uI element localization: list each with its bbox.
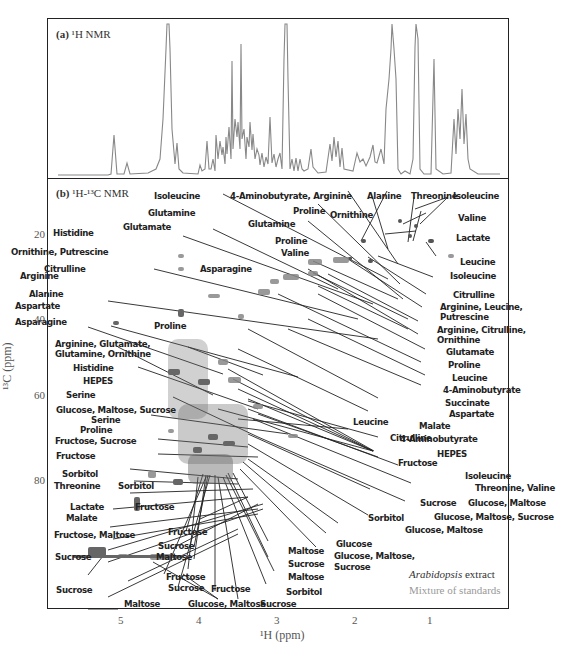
label-serine-2: Serine [91, 415, 120, 425]
label-fructose-b3: Fructose [211, 584, 250, 594]
label-sucrose-b3: Sucrose [260, 599, 296, 609]
xtick-4: 4 [196, 614, 202, 626]
label-ornithine-putrescine: Ornithine, Putrescine [11, 247, 108, 257]
panel-b-hsqc: (b) ¹H-¹³C NMR [47, 178, 509, 609]
label-ornithine-right: Ornithine [437, 335, 480, 345]
label-fructose-center: Fructose [135, 502, 174, 512]
label-glucose-b: Glucose [336, 539, 372, 549]
label-proline-right: Proline [448, 360, 480, 370]
xtick-3: 3 [274, 614, 280, 626]
label-glucose-maltose-comma: Glucose, Maltose, [334, 551, 415, 561]
legend-mixture-of-standards: Mixture of standards [409, 584, 501, 596]
label-aspartate-right: Aspartate [449, 409, 494, 419]
label-glucose-maltose-bottom: Glucose, Maltose [188, 599, 266, 609]
label-leucine-right: Leucine [460, 257, 495, 267]
label-sucrose-right: Sucrose [420, 498, 456, 508]
x-axis-label: ¹H (ppm) [260, 628, 305, 643]
label-isoleucine: Isoleucine [154, 191, 200, 201]
label-citrulline-center: Citrulline [390, 433, 432, 443]
label-alanine-left: Alanine [29, 289, 63, 299]
label-lactate-left: Lactate [70, 502, 104, 512]
xtick-2: 2 [352, 614, 358, 626]
label-maltose-bottom-left: Maltose [124, 599, 160, 609]
xtick-1: 1 [427, 614, 433, 626]
label-sucrose-bottom-left: Sucrose [56, 585, 92, 595]
label-arginine-citrulline: Arginine, Citrulline, [437, 325, 526, 335]
label-leucine-center: Leucine [353, 417, 388, 427]
label-sorbitol-left: Sorbitol [62, 469, 98, 479]
label-fructose-left: Fructose [56, 451, 95, 461]
label-arginine: Arginine [20, 271, 59, 281]
label-sucrose-b2: Sucrose [168, 583, 204, 593]
label-glutamate: Glutamate [123, 222, 171, 232]
label-valine-right: Valine [458, 213, 486, 223]
label-isoleucine-top-right: Isoleucine [453, 191, 499, 201]
label-hepes-right: HEPES [437, 449, 467, 459]
label-serine: Serine [66, 390, 95, 400]
label-isoleucine-right: Isoleucine [450, 271, 496, 281]
label-ornithine: Ornithine [330, 210, 373, 220]
label-threonine-left: Threonine [54, 481, 100, 491]
label-glucose-maltose-right-2: Glucose, Maltose [405, 525, 483, 535]
ytick-40: 40 [34, 313, 45, 325]
label-glutamine-ornithine: Glutamine, Ornithine [55, 349, 151, 359]
label-citrulline-right: Citrulline [453, 290, 495, 300]
label-isoleucine-right-2: Isoleucine [465, 471, 511, 481]
label-sorbitol-2: Sorbitol [118, 481, 154, 491]
label-glutamine-2: Glutamine [248, 219, 295, 229]
label-fructose-sucrose: Fructose, Sucrose [55, 436, 136, 446]
label-leucine-right-2: Leucine [452, 373, 487, 383]
label-sorbitol-b: Sorbitol [286, 587, 322, 597]
label-proline-left: Proline [80, 425, 112, 435]
label-sucrose-b4: Sucrose [288, 559, 324, 569]
label-4-aminobutyrate-right: 4-Aminobutyrate [443, 385, 521, 395]
label-sorbitol-right: Sorbitol [368, 513, 404, 523]
label-sucrose-b5: Sucrose [334, 562, 370, 572]
label-succinate: Succinate [445, 398, 490, 408]
label-threonine-valine: Threonine, Valine [475, 483, 555, 493]
panel-a-1h-nmr: (a) ¹H NMR [47, 18, 509, 179]
label-histidine: Histidine [53, 228, 94, 238]
label-histidine-left: Histidine [73, 363, 114, 373]
xtick-5: 5 [118, 614, 124, 626]
label-fructose-maltose: Fructose, Maltose [54, 530, 135, 540]
label-sucrose-b1: Sucrose [158, 541, 194, 551]
label-fructose-right: Fructose [398, 458, 437, 468]
label-proline-center: Proline [154, 321, 186, 331]
label-asparagine-center: Asparagine [200, 264, 252, 274]
label-putrescine: Putrescine [440, 312, 489, 322]
label-valine: Valine [281, 248, 309, 258]
label-glutamate-right: Glutamate [446, 347, 494, 357]
label-maltose-b1: Maltose [156, 552, 192, 562]
label-proline-2: Proline [275, 236, 307, 246]
label-maltose-b2: Maltose [288, 546, 324, 556]
label-glucose-maltose-sucrose-right: Glucose, Maltose, Sucrose [434, 512, 554, 522]
label-4-aminobutyrate-arginine: 4-Aminobutyrate, Arginine [230, 191, 352, 201]
label-hepes-left: HEPES [83, 376, 113, 386]
1h-spectrum [48, 19, 510, 180]
label-glutamine: Glutamine [148, 208, 195, 218]
ytick-60: 60 [34, 389, 45, 401]
label-glucose-maltose-right: Glucose, Maltose [468, 498, 546, 508]
y-axis-label: ¹³C (ppm) [0, 310, 15, 390]
label-threonine: Threonine [411, 191, 457, 201]
label-arginine-glutamate: Arginine, Glutamate, [55, 339, 150, 349]
label-aspartate: Aspartate [15, 301, 60, 311]
label-arginine-leucine: Arginine, Leucine, [440, 302, 523, 312]
label-proline: Proline [293, 206, 325, 216]
label-maltose-b3: Maltose [288, 572, 324, 582]
label-fructose-b2: Fructose [166, 572, 205, 582]
label-glucose-maltose-sucrose-left: Glucose, Maltose, Sucrose [56, 405, 176, 415]
label-malate-right: Malate [419, 421, 450, 431]
legend-arabidopsis-extract: Arabidopsis extract [409, 568, 495, 580]
label-malate-left: Malate [66, 513, 97, 523]
label-alanine: Alanine [367, 191, 401, 201]
label-fructose-b1: Fructose [168, 527, 207, 537]
ytick-20: 20 [34, 228, 45, 240]
label-sucrose-left: Sucrose [55, 552, 91, 562]
ytick-80: 80 [34, 474, 45, 486]
label-lactate-right: Lactate [456, 233, 490, 243]
